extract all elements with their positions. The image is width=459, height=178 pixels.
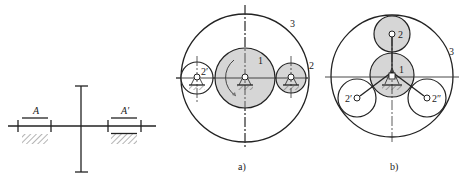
shaft-figure: A A′ (8, 86, 156, 172)
planet-2-double-prime-pivot-icon (424, 95, 430, 101)
figure-b: 2 1 2′ 2″ 3 b) (325, 15, 459, 173)
planet-2-pivot-icon (389, 31, 395, 37)
ring-gear-label: 3 (290, 18, 295, 29)
ground-hatch-icon (22, 134, 48, 144)
planet-gear-double-prime-label: 2″ (432, 93, 441, 104)
bearing-a: A (18, 105, 51, 144)
sun-gear-label: 1 (399, 64, 404, 75)
planet-gear-prime-label: 2′ (201, 66, 208, 77)
bearing-a-prime-label: A′ (120, 105, 130, 116)
bearing-a-prime: A′ (108, 105, 141, 144)
planetary-gear-diagram: A A′ (0, 0, 459, 178)
ground-hatch-icon (111, 134, 137, 144)
planet-gear-label: 2 (309, 60, 314, 71)
figure-a-caption: a) (238, 161, 246, 173)
planet-gear-top-label: 2 (398, 29, 403, 40)
planet-gear-prime-label: 2′ (345, 93, 352, 104)
figure-a: 1 2 2′ 3 a) (176, 5, 314, 173)
sun-gear-label: 1 (258, 55, 263, 66)
ring-gear-label: 3 (449, 46, 454, 57)
figure-b-caption: b) (390, 161, 398, 173)
planet-2-prime-pivot-icon (354, 95, 360, 101)
bearing-a-label: A (32, 105, 40, 116)
